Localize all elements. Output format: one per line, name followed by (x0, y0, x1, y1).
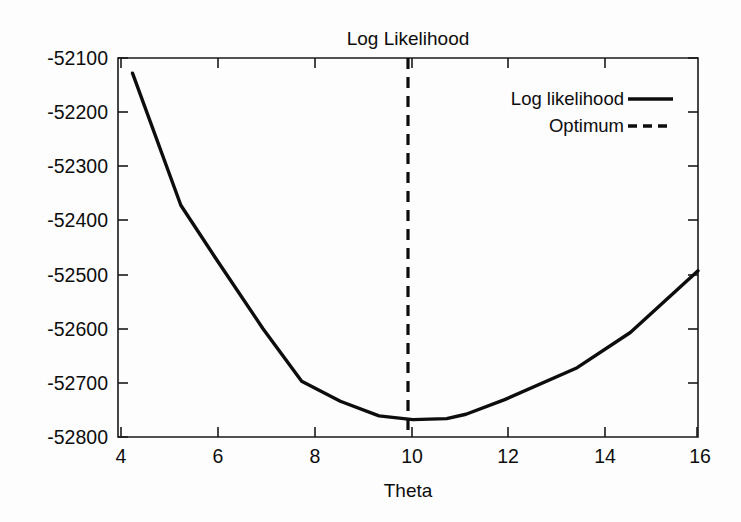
legend-label-log-likelihood: Log likelihood (511, 88, 624, 109)
y-tick-label: -52700 (47, 372, 108, 394)
y-tick-label: -52800 (47, 426, 108, 448)
y-axis-tick-labels: -52100 -52200 -52300 -52400 -52500 -5260… (47, 47, 108, 448)
x-tick-label: 4 (116, 445, 127, 467)
x-tick-label: 16 (689, 445, 711, 467)
x-axis-tick-labels: 4 6 8 10 12 14 16 (116, 445, 711, 467)
x-tick-label: 12 (497, 445, 519, 467)
y-tick-label: -52400 (47, 209, 108, 231)
x-axis-title: Theta (384, 480, 433, 501)
legend-label-optimum: Optimum (549, 115, 624, 136)
x-tick-label: 10 (401, 445, 423, 467)
y-tick-label: -52500 (47, 264, 108, 286)
y-tick-label: -52600 (47, 318, 108, 340)
y-tick-label: -52100 (47, 47, 108, 69)
x-tick-label: 14 (594, 445, 616, 467)
chart-legend: Log likelihood Optimum (511, 88, 673, 136)
y-tick-label: -52200 (47, 101, 108, 123)
x-tick-label: 8 (310, 445, 321, 467)
y-tick-label: -52300 (47, 155, 108, 177)
chart-title: Log Likelihood (347, 28, 470, 49)
chart-figure: Log Likelihood (0, 0, 741, 522)
log-likelihood-chart: Log Likelihood (0, 0, 741, 522)
x-tick-label: 6 (213, 445, 224, 467)
